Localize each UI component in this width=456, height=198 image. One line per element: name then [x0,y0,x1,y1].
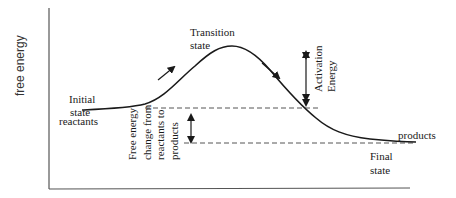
products-label: products [398,130,436,141]
transition-state-label-2: state [190,40,210,51]
x-axis [49,188,410,189]
free-energy-change-label-4: products [169,122,180,160]
transition-state-label-1: Transition [190,27,235,38]
free-energy-change-label-2: change from [142,105,153,160]
final-state-label-1: Final [370,151,393,162]
reactants-label: reactants [59,116,98,127]
free-energy-arrowhead-up [187,113,195,121]
activation-arrowhead-up [302,50,310,58]
uphill-arrow [158,67,174,80]
y-axis-label: free energy [15,35,26,96]
initial-state-label-1: Initial [69,94,95,105]
activation-energy-label-2: Energy [326,60,337,92]
final-state-label-2: state [370,165,390,176]
energy-diagram: free energy Transition state Initial sta… [0,0,456,198]
downhill-arrow [262,63,279,78]
activation-energy-label-1: Activation [313,46,324,92]
free-energy-change-label-3: reactants to [155,110,166,160]
free-energy-change-label-1: Free energy [127,108,138,160]
